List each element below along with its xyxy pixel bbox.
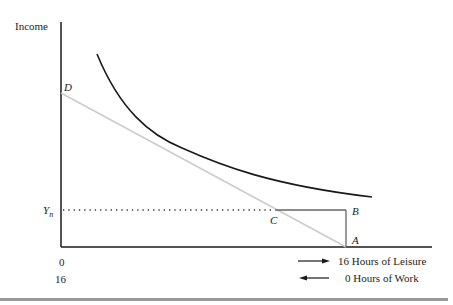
- point-a-label: A: [352, 234, 359, 246]
- work-label: 0 Hours of Work: [345, 272, 419, 284]
- yn-label: Yn: [43, 204, 53, 221]
- point-d-label: D: [64, 81, 72, 93]
- budget-line: [61, 93, 346, 247]
- point-c-label: C: [270, 214, 277, 226]
- leisure-label: 16 Hours of Leisure: [338, 255, 426, 267]
- arrow-right-icon: [298, 259, 330, 264]
- arrow-left-icon: [299, 276, 329, 281]
- y-axis-label: Income: [15, 20, 48, 32]
- point-b-label: B: [352, 205, 359, 217]
- indifference-curve: [97, 54, 372, 197]
- yn-subscript: n: [49, 210, 53, 219]
- x-origin-sixteen: 16: [55, 273, 66, 285]
- x-origin-zero: 0: [59, 256, 65, 268]
- bottom-divider: [0, 298, 448, 301]
